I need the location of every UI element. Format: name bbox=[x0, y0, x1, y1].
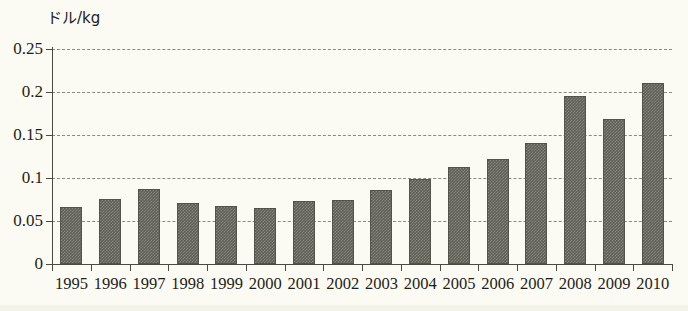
bar bbox=[603, 119, 625, 264]
y-axis-tick-label: 0.25 bbox=[13, 39, 43, 59]
x-axis-tick-label: 2010 bbox=[636, 274, 669, 294]
x-axis-tick-label: 2000 bbox=[249, 274, 282, 294]
bar bbox=[177, 203, 199, 264]
x-axis-tick-mark bbox=[207, 264, 208, 271]
bar-chart: ドル/kg 00.050.10.150.20.25 19951996199719… bbox=[0, 0, 688, 311]
y-axis-tick-label: 0.2 bbox=[22, 82, 43, 102]
x-axis-tick-mark bbox=[130, 264, 131, 271]
x-axis-tick-label: 1996 bbox=[94, 274, 127, 294]
y-axis-title: ドル/kg bbox=[47, 6, 100, 27]
bars-layer bbox=[52, 49, 672, 264]
bar bbox=[138, 189, 160, 264]
x-axis-tick-mark bbox=[440, 264, 441, 271]
y-axis-tick-label: 0.15 bbox=[13, 125, 43, 145]
bar bbox=[215, 206, 237, 264]
y-axis-tick-label: 0.1 bbox=[22, 168, 43, 188]
y-axis-tick-label: 0.05 bbox=[13, 211, 43, 231]
x-axis-tick-label: 1999 bbox=[210, 274, 243, 294]
y-axis-tick-label: 0 bbox=[35, 254, 44, 274]
x-axis-tick-mark bbox=[323, 264, 324, 271]
x-axis-tick-label: 2003 bbox=[365, 274, 398, 294]
x-axis-tick-mark bbox=[285, 264, 286, 271]
x-axis-tick-label: 2007 bbox=[520, 274, 553, 294]
x-axis-tick-mark bbox=[168, 264, 169, 271]
bar bbox=[525, 143, 547, 264]
x-axis-tick-mark bbox=[362, 264, 363, 271]
x-axis-tick-label: 2006 bbox=[481, 274, 514, 294]
bar bbox=[332, 200, 354, 265]
bar bbox=[254, 208, 276, 264]
x-axis-tick-mark bbox=[556, 264, 557, 271]
bar bbox=[60, 207, 82, 264]
x-axis-tick-label: 2004 bbox=[404, 274, 437, 294]
bar bbox=[370, 190, 392, 264]
x-axis-tick-label: 2001 bbox=[287, 274, 320, 294]
x-axis-tick-mark bbox=[246, 264, 247, 271]
x-axis-ticks bbox=[52, 264, 672, 274]
page-edge bbox=[0, 305, 688, 311]
x-axis-tick-mark bbox=[672, 264, 673, 271]
x-axis-tick-mark bbox=[595, 264, 596, 271]
x-axis-tick-mark bbox=[91, 264, 92, 271]
x-axis-tick-label: 2005 bbox=[442, 274, 475, 294]
x-axis-tick-mark bbox=[401, 264, 402, 271]
x-axis-tick-label: 2009 bbox=[597, 274, 630, 294]
x-axis-tick-label: 2002 bbox=[326, 274, 359, 294]
bar bbox=[448, 167, 470, 264]
x-axis-tick-mark bbox=[517, 264, 518, 271]
bar bbox=[564, 96, 586, 264]
bar bbox=[409, 179, 431, 264]
x-axis-tick-label: 1998 bbox=[171, 274, 204, 294]
x-axis-tick-mark bbox=[633, 264, 634, 271]
x-axis-tick-mark bbox=[52, 264, 53, 271]
x-axis-tick-mark bbox=[478, 264, 479, 271]
y-axis-line bbox=[52, 47, 53, 266]
x-axis-tick-label: 1995 bbox=[55, 274, 88, 294]
bar bbox=[487, 159, 509, 264]
x-axis-labels: 1995199619971998199920002001200220032004… bbox=[52, 274, 672, 302]
x-axis-tick-label: 1997 bbox=[132, 274, 165, 294]
bar bbox=[293, 201, 315, 264]
plot-area: 00.050.10.150.20.25 bbox=[52, 49, 672, 264]
x-axis-tick-label: 2008 bbox=[559, 274, 592, 294]
bar bbox=[642, 83, 664, 264]
bar bbox=[99, 199, 121, 264]
